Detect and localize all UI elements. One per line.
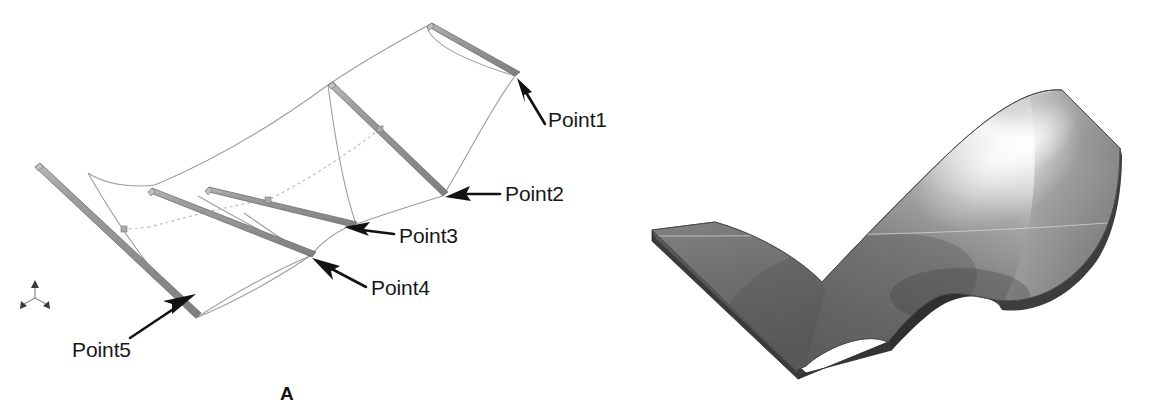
callout-arrow-point4 — [312, 258, 366, 287]
panel-caption-a: A — [280, 383, 294, 405]
section-plane-2 — [328, 82, 448, 196]
callout-label-point5: Point5 — [72, 338, 131, 362]
callout-label-point3: Point3 — [399, 224, 458, 248]
figure-container: Point1 Point2 Point3 Point4 Point5 A — [0, 0, 1162, 419]
callout-label-point1: Point1 — [548, 108, 607, 132]
callout-label-point4: Point4 — [371, 276, 430, 300]
callout-arrow-point5 — [130, 294, 196, 338]
panel-a: Point1 Point2 Point3 Point4 Point5 A — [0, 0, 600, 419]
panel-b: B — [600, 0, 1162, 419]
panel-b-graphic — [600, 0, 1162, 419]
section-plane-1 — [427, 23, 520, 76]
wireframe-dashed-spine — [126, 129, 380, 229]
lofted-surface-body — [652, 53, 1120, 390]
section-plane-5 — [35, 163, 201, 318]
callout-arrow-point1 — [517, 78, 545, 124]
coordinate-triad-icon — [20, 280, 50, 309]
callout-label-point2: Point2 — [505, 182, 564, 206]
callout-arrow-point2 — [445, 186, 500, 201]
section-plane-3 — [148, 188, 316, 257]
